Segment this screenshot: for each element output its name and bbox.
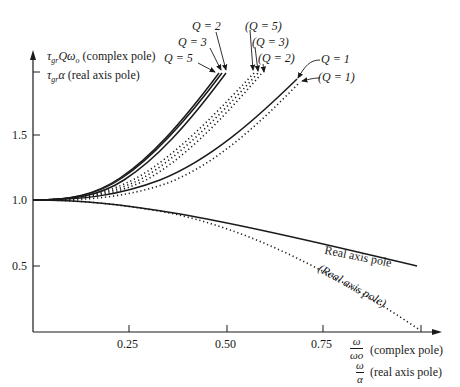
x-axis-label-real: (real axis pole) bbox=[370, 366, 442, 378]
annotation-pq5: (Q = 5) bbox=[245, 20, 282, 32]
curve-q2-dotted bbox=[33, 73, 262, 200]
annotation-q1: Q = 1 bbox=[321, 53, 350, 65]
curve-q1-dotted bbox=[33, 82, 300, 200]
y-tick-label-1.5: 1.5 bbox=[12, 129, 27, 141]
x-tick-label-0.75: 0.75 bbox=[311, 338, 332, 350]
annotation-q3: Q = 3 bbox=[178, 36, 207, 48]
y-tick-label-1.0: 1.0 bbox=[12, 194, 27, 206]
curve-q5-solid bbox=[33, 73, 219, 200]
arrow-q1 bbox=[298, 60, 320, 78]
y-label-suffix: (real axis pole) bbox=[65, 68, 140, 82]
curve-q3-dotted bbox=[33, 73, 258, 200]
x-tick-label-0.50: 0.50 bbox=[215, 338, 236, 350]
annotation-q2: Q = 2 bbox=[192, 20, 221, 32]
arrow-pq2 bbox=[263, 64, 264, 72]
annotation-pq1: (Q = 1) bbox=[318, 71, 355, 83]
y-axis-arrow-icon bbox=[30, 50, 36, 60]
x-axis-fraction-complex: ω ωo bbox=[350, 336, 363, 361]
curve-q2-solid bbox=[33, 73, 226, 200]
fraction-numerator: ω bbox=[353, 336, 361, 347]
y-axis-label-complex: τgrQωo (complex pole) bbox=[47, 50, 156, 65]
x-tick-label-0.25: 0.25 bbox=[117, 338, 138, 350]
x-axis-arrow-icon bbox=[432, 329, 442, 335]
annotation-q5: Q = 5 bbox=[164, 52, 193, 64]
annotation-pq2: (Q = 2) bbox=[258, 52, 295, 64]
fraction-numerator: ω bbox=[356, 360, 364, 371]
y-axis-label-real: τgrα (real axis pole) bbox=[47, 69, 140, 84]
arrow-q3 bbox=[210, 48, 221, 70]
curve-q3-solid bbox=[33, 73, 222, 200]
fraction-denominator: α bbox=[357, 374, 363, 385]
y-tick-label-0.5: 0.5 bbox=[12, 260, 27, 272]
curve-real-axis-dotted bbox=[33, 200, 420, 330]
arrow-q5 bbox=[198, 63, 215, 72]
q-omega-symbol: Qω bbox=[58, 49, 75, 63]
x-axis-label-complex: (complex pole) bbox=[370, 344, 443, 356]
x-axis-fraction-real: ω α bbox=[356, 360, 364, 385]
y-label-suffix: (complex pole) bbox=[80, 49, 156, 63]
annotation-pq3: (Q = 3) bbox=[252, 36, 289, 48]
arrow-q2 bbox=[216, 32, 226, 70]
